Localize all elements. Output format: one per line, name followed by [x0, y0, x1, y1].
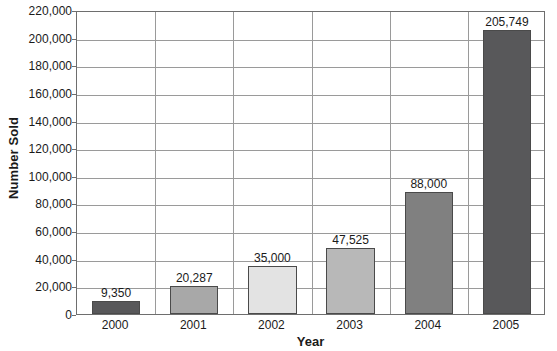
gridline-horizontal [77, 95, 544, 96]
x-tick-label: 2001 [154, 318, 232, 332]
y-axis-title: Number Sold [2, 0, 24, 315]
bar [92, 301, 140, 314]
bar [405, 192, 453, 314]
x-tick-label: 2000 [76, 318, 154, 332]
gridline-horizontal [77, 233, 544, 234]
gridline-vertical [233, 12, 234, 314]
y-tick-label: 200,000 [24, 33, 72, 45]
bar-chart: Number Sold 020,00040,00060,00080,000100… [0, 0, 557, 351]
bar-value-label: 20,287 [155, 272, 233, 285]
bar-value-label: 35,000 [233, 252, 311, 265]
gridline-vertical [155, 12, 156, 314]
bar [326, 248, 374, 314]
x-tick-label: 2002 [232, 318, 310, 332]
y-tick-label: 40,000 [24, 254, 72, 266]
x-tick-label: 2005 [467, 318, 545, 332]
y-axis-title-text: Number Sold [6, 117, 21, 199]
bar [248, 266, 296, 314]
y-tick-label: 80,000 [24, 198, 72, 210]
x-tick-label: 2003 [311, 318, 389, 332]
y-tick-mark [72, 315, 76, 316]
bar-value-label: 88,000 [390, 178, 468, 191]
gridline-horizontal [77, 40, 544, 41]
gridline-vertical [390, 12, 391, 314]
y-tick-label: 220,000 [24, 5, 72, 17]
gridline-horizontal [77, 123, 544, 124]
y-tick-label: 0 [24, 309, 72, 321]
x-axis-title: Year [76, 334, 545, 349]
bar-value-label: 9,350 [77, 287, 155, 300]
y-tick-label: 100,000 [24, 171, 72, 183]
gridline-vertical [468, 12, 469, 314]
y-axis-ticks: 020,00040,00060,00080,000100,000120,0001… [24, 0, 72, 351]
gridline-horizontal [77, 205, 544, 206]
y-tick-label: 160,000 [24, 88, 72, 100]
gridline-vertical [312, 12, 313, 314]
plot-area: 9,35020,28735,00047,52588,000205,749 [76, 11, 545, 315]
gridline-horizontal [77, 178, 544, 179]
y-tick-label: 60,000 [24, 226, 72, 238]
y-tick-label: 120,000 [24, 143, 72, 155]
bar-value-label: 205,749 [468, 16, 546, 29]
gridline-horizontal [77, 67, 544, 68]
gridline-horizontal [77, 150, 544, 151]
bar [170, 286, 218, 314]
x-tick-label: 2004 [389, 318, 467, 332]
y-tick-label: 20,000 [24, 281, 72, 293]
y-tick-label: 180,000 [24, 60, 72, 72]
bar [483, 30, 531, 314]
bar-value-label: 47,525 [312, 234, 390, 247]
y-tick-label: 140,000 [24, 116, 72, 128]
